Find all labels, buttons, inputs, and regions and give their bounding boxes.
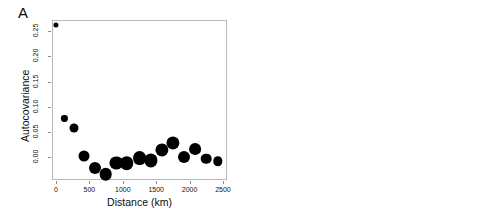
x-tick	[89, 181, 90, 184]
x-tick-label: 500	[84, 186, 96, 193]
y-tick-label: 0.05	[32, 123, 39, 141]
x-tick-label: 2500	[215, 186, 231, 193]
y-tick-label: 0.25	[32, 22, 39, 40]
data-point	[120, 157, 134, 171]
x-tick	[223, 181, 224, 184]
y-tick	[48, 56, 51, 57]
y-tick-label: 0.10	[32, 97, 39, 115]
panel-a-letter: A	[18, 5, 28, 20]
y-tick	[48, 31, 51, 32]
x-tick-label: 1500	[148, 186, 164, 193]
x-tick	[56, 181, 57, 184]
y-tick	[48, 82, 51, 83]
x-tick-label: 1000	[115, 186, 131, 193]
x-tick	[190, 181, 191, 184]
panel-a-x-axis-title: Distance (km)	[107, 197, 172, 208]
y-tick	[48, 107, 51, 108]
data-point	[201, 154, 212, 165]
data-point	[70, 124, 79, 133]
y-tick-label: 0.20	[32, 47, 39, 65]
panel-b: B 50010001500200025000.000.050.100.150.2…	[246, 0, 491, 223]
data-point	[79, 150, 90, 161]
panel-a: A 050010001500200025000.000.050.100.150.…	[0, 0, 246, 223]
y-tick-label: 0.15	[32, 72, 39, 90]
y-tick-label: 0.00	[32, 148, 39, 166]
y-tick	[48, 157, 51, 158]
x-tick-label: 2000	[182, 186, 198, 193]
figure-container: A 050010001500200025000.000.050.100.150.…	[0, 0, 491, 223]
data-point	[189, 143, 201, 155]
panel-a-y-axis-title: Autocovariance	[20, 70, 31, 142]
y-tick	[48, 132, 51, 133]
data-point	[178, 151, 190, 163]
x-tick	[123, 181, 124, 184]
x-tick-label: 0	[54, 186, 58, 193]
data-point	[99, 168, 112, 181]
x-tick	[156, 181, 157, 184]
